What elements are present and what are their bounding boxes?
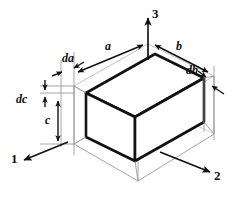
axis-2-label: 2 xyxy=(214,168,221,183)
dim-db-label: db xyxy=(186,63,198,77)
dim-da-arrow-in xyxy=(52,72,62,76)
dim-a-label: a xyxy=(105,39,111,53)
cube-diagram-svg: 3 1 2 a b c da db xyxy=(0,0,235,198)
tie-line-left-bot xyxy=(74,137,86,144)
dim-da-label: da xyxy=(62,51,74,65)
dim-b-label: b xyxy=(176,39,182,53)
dim-dc-label: dc xyxy=(16,92,28,106)
axis-1-arrow xyxy=(24,142,68,160)
tie-line-right-bot xyxy=(204,122,214,134)
dimension-c: c xyxy=(45,101,58,141)
figure-container: 3 1 2 a b c da db xyxy=(0,0,235,198)
dim-da-leader xyxy=(74,62,84,68)
axis-2-arrow xyxy=(160,152,210,172)
dim-c-label: c xyxy=(45,113,51,127)
dimension-dc: dc xyxy=(16,80,45,107)
axis-1-label: 1 xyxy=(11,151,18,166)
axis-3-label: 3 xyxy=(152,6,159,21)
